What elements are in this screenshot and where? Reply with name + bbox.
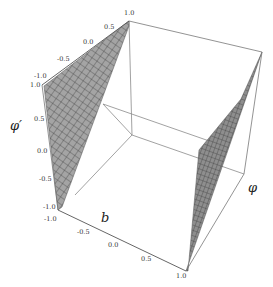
svg-text:0.5: 0.5 bbox=[104, 23, 114, 31]
left-surface bbox=[44, 21, 129, 210]
svg-text:0.5: 0.5 bbox=[141, 255, 151, 263]
right-surface bbox=[186, 52, 262, 271]
svg-text:1.0: 1.0 bbox=[176, 272, 186, 280]
phi-axis-label: φ bbox=[248, 180, 258, 195]
b-axis-label: b bbox=[101, 210, 109, 225]
svg-text:0.0: 0.0 bbox=[108, 241, 118, 249]
3d-surface-plot: -1.0 -0.5 0.0 0.5 1.0 1.0 0.5 0.0 -0.5 -… bbox=[0, 0, 273, 287]
bottom-axis-ticks: -1.0 -0.5 0.0 0.5 1.0 bbox=[44, 215, 186, 280]
svg-text:0.0: 0.0 bbox=[37, 147, 47, 155]
svg-text:0.0: 0.0 bbox=[83, 38, 93, 46]
svg-text:-0.5: -0.5 bbox=[77, 228, 90, 236]
svg-text:-0.5: -0.5 bbox=[57, 55, 70, 63]
svg-text:1.0: 1.0 bbox=[30, 81, 40, 89]
svg-text:-1.0: -1.0 bbox=[34, 72, 47, 80]
svg-text:0.5: 0.5 bbox=[34, 115, 44, 123]
svg-text:-0.5: -0.5 bbox=[39, 175, 52, 183]
svg-text:-1.0: -1.0 bbox=[43, 203, 56, 211]
svg-text:1.0: 1.0 bbox=[124, 9, 134, 17]
phi-prime-axis-label: φ′ bbox=[10, 118, 22, 133]
svg-text:-1.0: -1.0 bbox=[44, 215, 57, 223]
